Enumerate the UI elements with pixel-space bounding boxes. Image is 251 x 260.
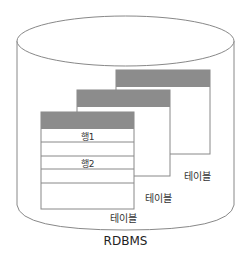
- row-2-label: 행2: [41, 157, 134, 170]
- rdbms-label: RDBMS: [0, 234, 251, 248]
- table-back-label: 테이블: [184, 168, 211, 183]
- row-1-label: 행1: [41, 130, 134, 143]
- table-front-label: 테이블: [110, 210, 137, 225]
- table-middle-label: 테이블: [145, 190, 172, 205]
